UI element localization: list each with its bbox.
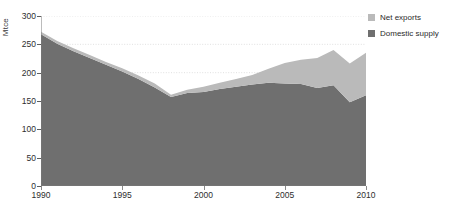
chart-legend: Net exports Domestic supply — [368, 13, 439, 45]
stacked-area-plot — [41, 16, 366, 186]
y-tick-150: 150 — [22, 96, 36, 106]
y-tick-200: 200 — [22, 68, 36, 78]
x-tick-1990: 1990 — [32, 190, 51, 200]
legend-swatch-domestic-supply — [368, 30, 375, 37]
y-tick-300: 300 — [22, 11, 36, 21]
x-tick-1995: 1995 — [113, 190, 132, 200]
legend-label-domestic-supply: Domestic supply — [380, 29, 439, 38]
plot-area — [41, 16, 366, 186]
x-tickmark-1990 — [41, 186, 42, 190]
x-tick-2000: 2000 — [194, 190, 213, 200]
y-tick-100: 100 — [22, 124, 36, 134]
x-tickmark-2010 — [366, 186, 367, 190]
legend-item-domestic-supply: Domestic supply — [368, 29, 439, 38]
legend-swatch-net-exports — [368, 14, 375, 21]
x-tick-2005: 2005 — [275, 190, 294, 200]
x-tickmark-2000 — [204, 186, 205, 190]
legend-label-net-exports: Net exports — [380, 13, 421, 22]
y-tick-250: 250 — [22, 39, 36, 49]
y-tick-50: 50 — [27, 153, 36, 163]
chart-container: Mtce 050100150200250300 1990199520002005… — [0, 0, 451, 215]
x-tickmark-1995 — [122, 186, 123, 190]
x-tick-2010: 2010 — [357, 190, 376, 200]
y-axis-tick-labels: 050100150200250300 — [0, 0, 36, 215]
legend-item-net-exports: Net exports — [368, 13, 439, 22]
x-tickmark-2005 — [285, 186, 286, 190]
